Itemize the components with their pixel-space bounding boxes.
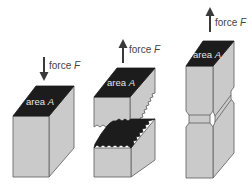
stress-diagram: force F area A force F area A force F: [0, 0, 252, 186]
arrow-down-icon: [40, 57, 49, 81]
force-label: force F: [129, 44, 161, 55]
panel-compression: force F area A: [13, 57, 81, 177]
arrow-up-icon: [206, 7, 215, 32]
panel-necking: force F area A: [186, 7, 247, 178]
lower-piece-front-face: [94, 148, 131, 177]
arrow-up-icon: [119, 39, 128, 63]
force-label: force F: [49, 60, 81, 71]
force-label: force F: [215, 17, 247, 28]
block-front-face: [13, 116, 49, 177]
area-label: area A: [193, 49, 221, 60]
area-label: area A: [107, 77, 135, 88]
area-label: area A: [26, 96, 54, 107]
necked-bar-front-face: [186, 66, 213, 178]
panel-fracture: force F area A: [94, 39, 161, 177]
